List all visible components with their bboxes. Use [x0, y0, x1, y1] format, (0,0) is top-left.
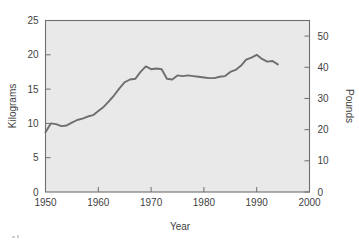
y-tick-label-right: 30	[318, 93, 330, 104]
y-tick-label-left: 10	[27, 118, 39, 129]
x-tick-label: 1970	[140, 197, 163, 208]
y-tick-label-right: 10	[318, 155, 330, 166]
x-tick-label: 1960	[87, 197, 110, 208]
plot-background	[46, 21, 310, 193]
y-tick-label-right: 50	[318, 31, 330, 42]
x-axis-labels: 195019601970198019902000	[34, 197, 321, 208]
page-artifact-mark	[12, 236, 15, 238]
y-axis-right-title: Pounds	[344, 89, 355, 123]
y-tick-label-left: 15	[27, 84, 39, 95]
y-tick-label-left: 25	[27, 15, 39, 26]
y-tick-label-right: 20	[318, 124, 330, 135]
y-tick-label-right: 0	[318, 187, 324, 198]
chart-container: 0510152025 01020304050 19501960197019801…	[0, 0, 359, 241]
y-tick-label-left: 20	[27, 49, 39, 60]
y-axis-left-title: Kilograms	[7, 84, 18, 128]
line-chart: 0510152025 01020304050 19501960197019801…	[0, 0, 359, 241]
y-tick-label-left: 0	[33, 187, 39, 198]
y-axis-left-labels: 0510152025	[27, 15, 39, 198]
x-tick-label: 1950	[34, 197, 57, 208]
y-axis-right-labels: 01020304050	[318, 31, 330, 198]
x-tick-label: 2000	[298, 197, 321, 208]
x-tick-label: 1990	[246, 197, 269, 208]
y-tick-label-right: 40	[318, 62, 330, 73]
x-tick-label: 1980	[193, 197, 216, 208]
x-axis-title: Year	[170, 221, 191, 232]
y-tick-label-left: 5	[33, 152, 39, 163]
page-artifact-mark-2	[17, 235, 19, 238]
